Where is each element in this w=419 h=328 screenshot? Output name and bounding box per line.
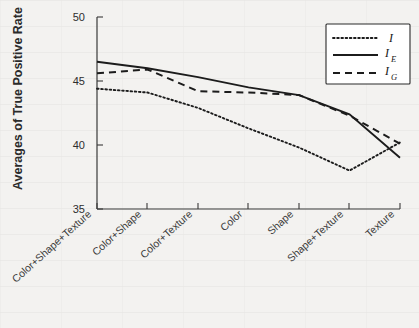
series-line-I xyxy=(97,89,400,171)
legend-background xyxy=(326,24,410,84)
y-tick-label-40: 40 xyxy=(73,139,85,151)
chart-figure: Averages of True Positive Rate 50 45 40 … xyxy=(0,0,419,328)
y-tick-label-45: 45 xyxy=(73,75,85,87)
x-axis-ticks xyxy=(97,203,400,209)
x-tick-label-4: Shape xyxy=(265,207,296,236)
x-tick-label-6: Texture xyxy=(363,207,397,239)
legend-label-I-G-subscript: G xyxy=(391,72,397,82)
chart-legend[interactable]: I I E I G xyxy=(326,24,410,84)
y-axis-ticks xyxy=(97,17,103,209)
y-axis-title: Averages of True Positive Rate xyxy=(11,7,25,190)
x-axis-labels: Color+Shape+Texture Color+Shape Color+Te… xyxy=(9,207,396,285)
y-tick-label-50: 50 xyxy=(73,11,85,23)
x-tick-label-2: Color+Texture xyxy=(138,207,195,260)
x-tick-label-3: Color xyxy=(218,207,245,233)
x-tick-label-1: Color+Shape xyxy=(90,207,144,257)
legend-label-I-E-subscript: E xyxy=(390,54,397,64)
x-tick-label-0: Color+Shape+Texture xyxy=(9,207,93,284)
